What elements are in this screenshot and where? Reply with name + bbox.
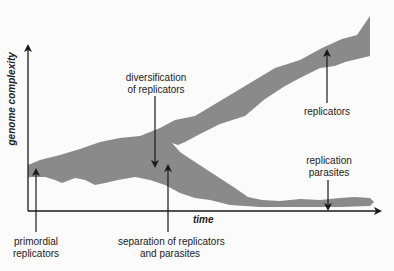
parasites-label: replication parasites — [302, 155, 356, 179]
diversification-label-line2: of replicators — [118, 84, 194, 96]
separation-label-line2: and parasites — [118, 248, 222, 260]
x-axis-label: time — [193, 214, 214, 226]
y-axis-label: genome complexity — [6, 66, 17, 146]
replicators-label: replicators — [302, 106, 352, 118]
parasites-label-line2: parasites — [302, 167, 356, 179]
parasites-label-line1: replication — [302, 155, 356, 167]
primordial-label-line1: primordial — [10, 236, 62, 248]
replicators-label-line1: replicators — [302, 106, 352, 118]
diagram-canvas — [0, 0, 394, 271]
diversification-label-line1: diversification — [118, 72, 194, 84]
diversification-label: diversification of replicators — [118, 72, 194, 96]
primordial-label-line2: replicators — [10, 248, 62, 260]
primordial-label: primordial replicators — [10, 236, 62, 260]
separation-label-line1: separation of replicators — [118, 236, 222, 248]
separation-label: separation of replicators and parasites — [118, 236, 222, 260]
